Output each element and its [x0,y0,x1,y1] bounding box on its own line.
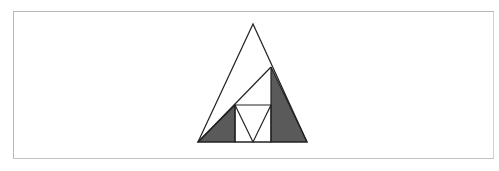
inner-square [235,105,271,142]
triangle-diagram [0,0,499,171]
inner-v-triangle [235,105,271,142]
